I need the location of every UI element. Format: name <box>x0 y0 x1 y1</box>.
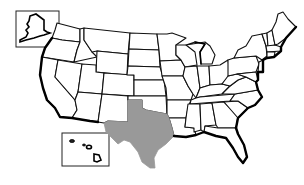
state-new-mexico <box>98 94 128 123</box>
hawaii-inset <box>62 133 109 166</box>
us-map <box>0 0 304 185</box>
state-montana <box>84 28 130 54</box>
state-colorado <box>102 73 134 96</box>
state-kansas <box>134 80 166 96</box>
state-north-dakota <box>129 33 159 50</box>
state-south-dakota <box>128 49 160 67</box>
state-florida <box>204 126 247 163</box>
state-wyoming <box>96 51 128 75</box>
state-new-york <box>234 34 267 60</box>
state-massachusetts <box>266 45 281 52</box>
state-mississippi <box>185 104 201 132</box>
state-arizona <box>72 92 102 122</box>
state-iowa <box>160 60 185 76</box>
